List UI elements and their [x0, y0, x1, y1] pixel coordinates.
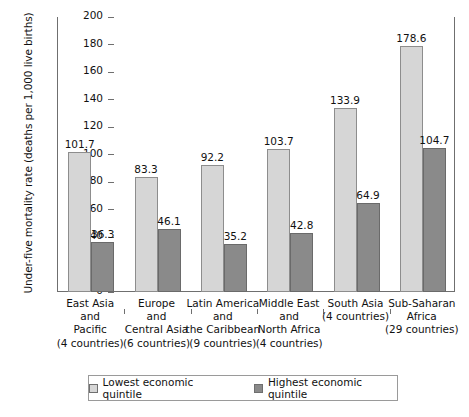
- bar[interactable]: [158, 229, 181, 292]
- y-axis-tick-mark: [108, 44, 114, 45]
- legend-swatch-lowest-quintile: [89, 384, 98, 393]
- bar[interactable]: [91, 242, 114, 292]
- y-axis-tick-mark: [108, 127, 114, 128]
- legend-swatch-highest-quintile: [254, 384, 263, 393]
- legend-item[interactable]: Lowest economic quintile: [89, 376, 228, 400]
- y-axis-tick-label: 160: [58, 64, 103, 76]
- bar-value-label: 133.9: [327, 94, 363, 106]
- legend: Lowest economic quintile Highest economi…: [88, 375, 398, 401]
- bar[interactable]: [400, 46, 423, 292]
- bar-value-label: 104.7: [416, 134, 452, 146]
- y-axis-tick-mark: [108, 182, 114, 183]
- bar-value-label: 101.7: [62, 138, 98, 150]
- bar[interactable]: [201, 165, 224, 292]
- category-label-line: (29 countries): [383, 323, 461, 336]
- legend-label-lowest-quintile: Lowest economic quintile: [103, 376, 229, 400]
- y-axis-tick-label: 140: [58, 92, 103, 104]
- category-label-line: Sub-Saharan: [383, 297, 461, 310]
- y-axis-tick-mark: [108, 17, 114, 18]
- bar[interactable]: [423, 148, 446, 292]
- category-label-line: Africa: [383, 310, 461, 323]
- bar-value-label: 103.7: [261, 135, 297, 147]
- legend-label-highest-quintile: Highest economic quintile: [268, 376, 397, 400]
- bar-value-label: 35.2: [217, 230, 253, 242]
- bar-value-label: 83.3: [128, 163, 164, 175]
- y-axis-tick-label: 200: [58, 9, 103, 21]
- bar[interactable]: [357, 203, 380, 292]
- y-axis-title: Under-five mortality rate (deaths per 1,…: [22, 8, 34, 298]
- bar-value-label: 46.1: [151, 215, 187, 227]
- bar-value-label: 178.6: [393, 32, 429, 44]
- y-axis-tick-mark: [108, 209, 114, 210]
- plot-area: 020406080100120140160180200 101.736.383.…: [57, 17, 455, 292]
- bar-value-label: 42.8: [284, 219, 320, 231]
- bar[interactable]: [135, 177, 158, 292]
- bar-value-label: 64.9: [350, 189, 386, 201]
- y-axis-tick-mark: [108, 72, 114, 73]
- x-axis-category-label: Sub-SaharanAfrica(29 countries): [383, 297, 461, 337]
- bar-value-label: 92.2: [194, 151, 230, 163]
- bar[interactable]: [68, 152, 91, 292]
- y-axis-tick-label: 180: [58, 37, 103, 49]
- y-axis-tick-label: 120: [58, 119, 103, 131]
- category-label-line: (4 countries): [250, 337, 328, 350]
- y-axis-tick-mark: [108, 154, 114, 155]
- bar[interactable]: [224, 244, 247, 292]
- category-label-line: North Africa: [250, 323, 328, 336]
- y-axis-tick-mark: [108, 99, 114, 100]
- legend-item[interactable]: Highest economic quintile: [254, 376, 397, 400]
- bar[interactable]: [290, 233, 313, 292]
- bar-value-label: 36.3: [85, 228, 121, 240]
- bar-chart: Under-five mortality rate (deaths per 1,…: [0, 0, 469, 417]
